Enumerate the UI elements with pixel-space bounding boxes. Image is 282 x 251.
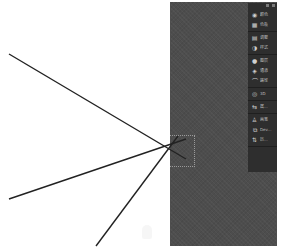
panel-button-paths[interactable]: ⌒路径	[248, 76, 277, 86]
layers-icon: ●	[251, 58, 258, 64]
panel-button-properties[interactable]: ⇆属...	[248, 102, 277, 112]
selection-marquee[interactable]	[170, 135, 195, 167]
panel-dock: ◉颜色▦色板▤调整◑样式●图层◈通道⌒路径◎3D⇆属...♙画笔⧉Dev...⇅…	[248, 3, 277, 172]
panel-group: ●图层◈通道⌒路径	[248, 55, 277, 88]
panel-group: ♙画笔⧉Dev...⇅历...	[248, 114, 277, 147]
panel-button-color[interactable]: ◉颜色	[248, 10, 277, 20]
panel-button-swatches[interactable]: ▦色板	[248, 20, 277, 30]
line-1	[9, 54, 186, 159]
color-icon: ◉	[251, 12, 258, 18]
panel-button-brush[interactable]: ♙画笔	[248, 115, 277, 125]
panel-label: 色板	[260, 22, 274, 28]
clone-source-icon: ⧉	[251, 127, 258, 133]
panel-label: 图层	[260, 58, 274, 64]
panel-group: ◉颜色▦色板	[248, 9, 277, 32]
panel-button-adjustments[interactable]: ▤调整	[248, 33, 277, 43]
panel-label: 通道	[260, 68, 274, 74]
panel-group: ◎3D	[248, 88, 277, 101]
styles-icon: ◑	[251, 45, 258, 51]
channels-icon: ◈	[251, 68, 258, 74]
panel-label: Dev...	[260, 127, 274, 133]
panel-button-clone-source[interactable]: ⧉Dev...	[248, 125, 277, 135]
history-icon: ⇅	[251, 137, 258, 143]
brush-icon: ♙	[251, 117, 258, 123]
panel-label: 样式	[260, 45, 274, 51]
adjustments-icon: ▤	[251, 35, 258, 41]
panel-button-styles[interactable]: ◑样式	[248, 43, 277, 53]
panel-group: ▤调整◑样式	[248, 32, 277, 55]
panel-label: 画笔	[260, 117, 274, 123]
panel-label: 3D	[260, 91, 274, 97]
faint-watermark	[142, 225, 152, 239]
panel-groups: ◉颜色▦色板▤调整◑样式●图层◈通道⌒路径◎3D⇆属...♙画笔⧉Dev...⇅…	[248, 9, 277, 147]
panel-group: ⇆属...	[248, 101, 277, 114]
panel-label: 历...	[260, 137, 274, 143]
panel-label: 调整	[260, 35, 274, 41]
panel-label: 属...	[260, 104, 274, 110]
close-icon[interactable]	[272, 4, 275, 7]
3d-icon: ◎	[251, 91, 258, 97]
swatches-icon: ▦	[251, 22, 258, 28]
panel-label: 颜色	[260, 12, 274, 18]
line-2	[9, 139, 186, 199]
line-3	[96, 136, 178, 246]
properties-icon: ⇆	[251, 104, 258, 110]
paths-icon: ⌒	[251, 78, 258, 84]
panel-label: 路径	[260, 78, 274, 84]
panel-button-3d[interactable]: ◎3D	[248, 89, 277, 99]
dock-header	[248, 3, 277, 9]
panel-button-history[interactable]: ⇅历...	[248, 135, 277, 145]
panel-button-channels[interactable]: ◈通道	[248, 66, 277, 76]
collapse-icon[interactable]	[266, 4, 269, 7]
panel-button-layers[interactable]: ●图层	[248, 56, 277, 66]
